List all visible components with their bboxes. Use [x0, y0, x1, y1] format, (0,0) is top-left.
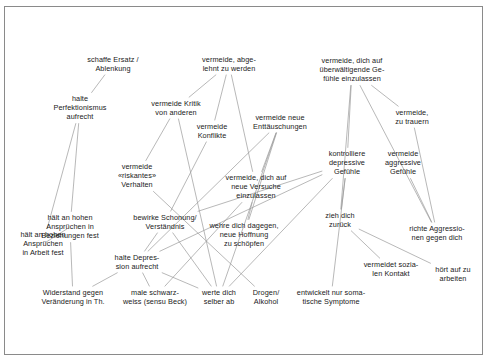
- diagram-edge: [410, 178, 432, 222]
- diagram-edge: [171, 142, 207, 212]
- diagram-node[interactable]: vermeide, dich auf überwältigende Ge- fü…: [320, 56, 385, 83]
- diagram-edge: [162, 273, 199, 289]
- diagram-edge: [143, 273, 150, 287]
- diagram-edge: [371, 85, 398, 106]
- diagram-node[interactable]: wehre dich dagegen, neue Hoffnung zu sch…: [209, 221, 278, 248]
- diagram-edge: [71, 242, 73, 286]
- diagram-node[interactable]: halte Depres- sion aufrecht: [115, 253, 160, 271]
- diagram-node[interactable]: vermeide «riskantes» Verhalten: [118, 162, 156, 189]
- diagram-node[interactable]: kontrolliere depressive Gefühle: [329, 149, 366, 176]
- diagram-node[interactable]: zieh dich zurück: [325, 211, 354, 229]
- diagram-node[interactable]: werte dich selber ab: [202, 288, 236, 306]
- diagram-edge: [215, 75, 227, 121]
- diagram-node[interactable]: entwickelt nur soma- tische Symptome: [297, 288, 365, 306]
- diagram-edge: [146, 119, 170, 161]
- diagram-edge: [92, 273, 117, 287]
- diagram-node[interactable]: vermeide Kritik von anderen: [151, 99, 200, 117]
- diagram-node[interactable]: hält an hohen Ansprüchen in Arbeit fest: [20, 230, 65, 257]
- diagram-node[interactable]: halte Perfektionismus aufrecht: [53, 94, 106, 121]
- diagram-node[interactable]: hört auf zu arbeiten: [435, 265, 470, 283]
- diagram-node[interactable]: bewirke Schonung/ Verständnis: [133, 213, 196, 231]
- diagram-edge: [91, 75, 105, 93]
- diagram-node[interactable]: Widerstand gegen Veränderung in Th.: [41, 288, 104, 306]
- diagram-edge: [189, 75, 216, 98]
- diagram-edge: [341, 85, 351, 209]
- diagram-canvas: schaffe Ersatz / Ablenkungvermeide, abge…: [0, 0, 491, 361]
- diagram-edge: [332, 178, 345, 286]
- diagram-node[interactable]: richte Aggressio- nen gegen dich: [409, 224, 465, 242]
- diagram-node[interactable]: vermeide neue Enttäuschungen: [253, 113, 307, 131]
- diagram-edge: [351, 231, 380, 259]
- diagram-edge: [231, 75, 252, 172]
- diagram-node[interactable]: Drogen/ Alkohol: [253, 288, 279, 306]
- diagram-node[interactable]: vermeide, zu trauern: [395, 108, 429, 126]
- diagram-node[interactable]: vermeide aggressive Gefühle: [385, 149, 421, 176]
- diagram-node[interactable]: vermeide, abge- lehnt zu werden: [202, 55, 256, 73]
- diagram-node[interactable]: male schwarz- weiss (sensu Beck): [123, 288, 187, 306]
- diagram-node[interactable]: vermeidet sozia- len Kontakt: [364, 260, 419, 278]
- diagram-node[interactable]: schaffe Ersatz / Ablenkung: [87, 55, 138, 73]
- diagram-node[interactable]: vermeide, dich auf neue Versuche einzula…: [226, 173, 287, 200]
- diagram-node[interactable]: vermeide Konflikte: [197, 122, 228, 140]
